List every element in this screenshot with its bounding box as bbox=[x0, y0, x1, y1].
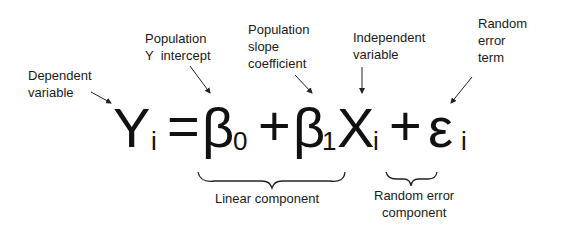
regression-diagram: Dependent variable Population Y intercep… bbox=[0, 0, 562, 227]
arrow-slope bbox=[295, 75, 312, 93]
arrow-intercept bbox=[190, 66, 210, 93]
brace-label-linear-component: Linear component bbox=[215, 190, 319, 207]
arrow-dependent bbox=[91, 92, 111, 103]
label-line: component bbox=[374, 204, 454, 221]
brace-linear bbox=[198, 172, 345, 188]
brace-label-random-error-component: Random error component bbox=[374, 187, 454, 221]
brace-random bbox=[386, 172, 437, 186]
label-line: Random error bbox=[374, 187, 454, 204]
arrow-error bbox=[451, 77, 472, 103]
